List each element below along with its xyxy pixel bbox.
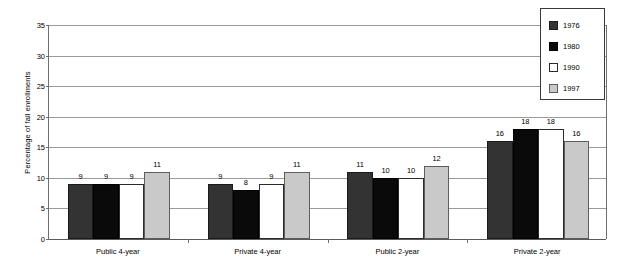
bar-1980-public-2-year [373, 178, 399, 239]
y-tick-label-20: 20 [37, 112, 45, 121]
legend-item-1976[interactable]: 1976 [549, 15, 604, 36]
bar-1997-private-4-year [284, 172, 310, 239]
bar-value-label: 10 [381, 166, 389, 175]
bar-value-label: 9 [79, 172, 83, 181]
bar-1990-public-2-year [398, 178, 424, 239]
y-tick-label-15: 15 [37, 143, 45, 152]
legend: 1976198019901997 [540, 8, 605, 100]
legend-swatch-1980 [549, 42, 558, 51]
bar-value-label: 9 [269, 172, 273, 181]
bar-1980-public-4-year [93, 184, 119, 239]
bar-value-label: 9 [218, 172, 222, 181]
bar-1990-private-2-year [538, 129, 564, 239]
legend-label-1997: 1997 [563, 85, 580, 93]
category-label-public-2-year: Public 2-year [375, 247, 419, 256]
bar-value-label: 8 [244, 178, 248, 187]
legend-label-1990: 1990 [563, 64, 580, 72]
bar-chart: Percentage of fall enrollments 051015202… [0, 0, 626, 268]
y-tick-label-5: 5 [41, 204, 45, 213]
y-tick-label-10: 10 [37, 173, 45, 182]
category-tick [328, 239, 329, 243]
bar-1980-private-2-year [513, 129, 539, 239]
bar-1997-private-2-year [564, 141, 590, 239]
bar-value-label: 12 [432, 154, 440, 163]
category-label-private-2-year: Private 2-year [514, 247, 561, 256]
bar-1976-public-2-year [347, 172, 373, 239]
category-label-public-4-year: Public 4-year [96, 247, 140, 256]
bar-value-label: 11 [153, 160, 161, 169]
legend-label-1976: 1976 [563, 22, 580, 30]
bar-1976-private-2-year [487, 141, 513, 239]
category-tick [467, 239, 468, 243]
bar-value-label: 11 [293, 160, 301, 169]
y-axis-title: Percentage of fall enrollments [23, 33, 32, 213]
bar-1976-public-4-year [68, 184, 94, 239]
bar-1976-private-4-year [208, 184, 234, 239]
category-label-private-4-year: Private 4-year [234, 247, 281, 256]
bar-value-label: 9 [130, 172, 134, 181]
y-tick-label-35: 35 [37, 21, 45, 30]
legend-swatch-1997 [549, 84, 558, 93]
legend-swatch-1976 [549, 21, 558, 30]
bar-value-label: 16 [496, 129, 504, 138]
y-tick-label-25: 25 [37, 82, 45, 91]
y-tick-label-0: 0 [41, 235, 45, 244]
bar-value-label: 16 [572, 129, 580, 138]
legend-item-1997[interactable]: 1997 [549, 78, 604, 99]
bar-value-label: 9 [104, 172, 108, 181]
y-tick-label-30: 30 [37, 51, 45, 60]
bar-1997-public-2-year [424, 166, 450, 239]
bar-1980-private-4-year [233, 190, 259, 239]
bar-value-label: 18 [521, 117, 529, 126]
bar-value-label: 18 [547, 117, 555, 126]
y-tick-mark-0 [46, 239, 49, 240]
bar-value-label: 10 [407, 166, 415, 175]
bar-1997-public-4-year [144, 172, 170, 239]
legend-item-1980[interactable]: 1980 [549, 36, 604, 57]
bar-1990-private-4-year [259, 184, 285, 239]
category-tick [188, 239, 189, 243]
bars-layer: 99911989111110101216181816 [49, 25, 606, 239]
bar-value-label: 11 [356, 160, 364, 169]
legend-label-1980: 1980 [563, 43, 580, 51]
plot-area: 05101520253035 9991198911111010121618181… [48, 25, 607, 239]
legend-item-1990[interactable]: 1990 [549, 57, 604, 78]
legend-swatch-1990 [549, 63, 558, 72]
bar-1990-public-4-year [119, 184, 145, 239]
